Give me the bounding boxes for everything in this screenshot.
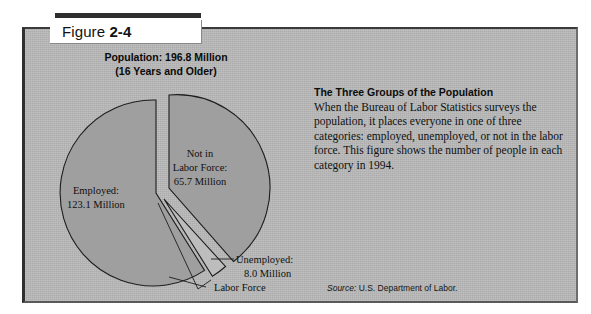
figure-tab-word: Figure — [62, 23, 105, 40]
figure-tab: Figure 2-4 — [50, 20, 202, 44]
pie-label-not-in-labor-force-line-1: Not in — [187, 148, 214, 159]
pie-label-unemployed-line-2: 8.0 Million — [244, 268, 292, 279]
figure-tab-number: 2-4 — [109, 23, 131, 40]
chart-title-line-1: Population: 196.8 Million — [56, 50, 276, 64]
note-body: When the Bureau of Labor Statistics surv… — [314, 100, 566, 172]
pie-label-labor-force: Labor Force — [214, 282, 266, 293]
pie-label-employed-line-1: Employed: — [73, 185, 119, 196]
pie-label-not-in-labor-force-line-3: 65.7 Million — [174, 176, 227, 187]
chart-title-line-2: (16 Years and Older) — [56, 64, 276, 78]
pie-chart-svg: Employed: 123.1 Million Not in Labor For… — [48, 84, 298, 299]
figure-tab-label: Figure 2-4 — [62, 23, 131, 40]
source-label: Source: — [327, 283, 356, 293]
pie-chart: Employed: 123.1 Million Not in Labor For… — [48, 84, 298, 299]
pie-label-unemployed-line-1: Unemployed: — [236, 254, 293, 265]
figure-screenshot: Figure 2-4 Population: 196.8 Million (16… — [0, 0, 591, 314]
note-block: The Three Groups of the Population When … — [314, 85, 566, 172]
source-line: Source: U.S. Department of Labor. — [327, 283, 457, 293]
source-text: U.S. Department of Labor. — [359, 283, 458, 293]
figure-tab-rule — [55, 13, 201, 18]
note-heading: The Three Groups of the Population — [314, 85, 566, 99]
chart-title: Population: 196.8 Million (16 Years and … — [56, 50, 276, 78]
pie-label-employed-line-2: 123.1 Million — [67, 199, 126, 210]
pie-label-not-in-labor-force-line-2: Labor Force: — [173, 162, 228, 173]
